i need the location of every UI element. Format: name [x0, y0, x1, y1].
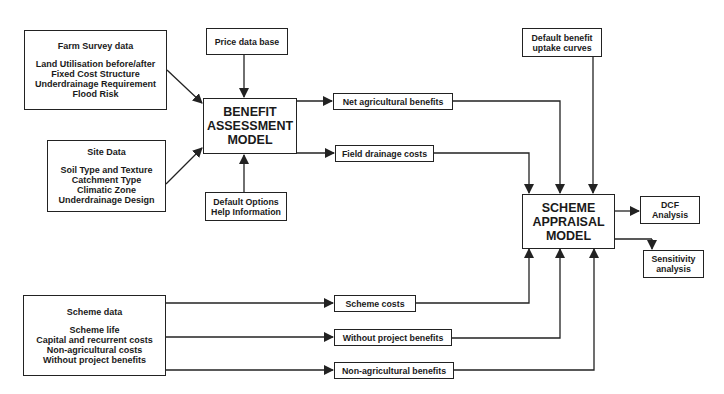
arrow-without-to-sam [452, 249, 560, 338]
arrow-field-drainage-to-sam [434, 153, 529, 193]
site-data-item: Climatic Zone [77, 185, 136, 195]
sam-line: APPRAISAL [532, 215, 604, 229]
scheme-appraisal-model-box: SCHEME APPRAISAL MODEL [522, 194, 615, 249]
dcf-line: Analysis [652, 210, 688, 220]
scheme-data-title: Scheme data [67, 307, 123, 317]
sam-line: MODEL [546, 229, 591, 243]
arrow-farm-to-bam [167, 70, 202, 103]
uptake-line: uptake curves [532, 43, 591, 53]
non-agricultural-benefits-box: Non-agricultural benefits [334, 362, 454, 379]
bam-line: ASSESSMENT [207, 119, 293, 133]
dcf-line: DCF [661, 200, 679, 210]
site-data-box: Site Data Soil Type and Texture Catchmen… [47, 140, 166, 212]
scheme-costs-label: Scheme costs [345, 299, 404, 309]
farm-survey-title: Farm Survey data [58, 41, 134, 51]
non-agricultural-benefits-label: Non-agricultural benefits [342, 366, 446, 376]
default-options-line: Default Options [213, 197, 279, 207]
site-data-item: Underdrainage Design [58, 195, 154, 205]
farm-survey-item: Underdrainage Requirement [35, 79, 156, 89]
arrow-net-agri-to-sam [453, 101, 560, 193]
scheme-data-item: Capital and recurrent costs [36, 335, 153, 345]
arrow-nonagri-to-sam [454, 249, 594, 370]
bam-line: MODEL [227, 133, 272, 147]
sensitivity-line: analysis [656, 264, 691, 274]
scheme-costs-box: Scheme costs [334, 295, 416, 312]
site-data-title: Site Data [87, 147, 126, 157]
bam-line: BENEFIT [223, 105, 276, 119]
dcf-analysis-box: DCF Analysis [640, 196, 700, 224]
without-project-benefits-label: Without project benefits [343, 333, 444, 343]
site-data-item: Soil Type and Texture [60, 165, 152, 175]
arrow-site-to-bam [166, 148, 202, 184]
price-data-base-box: Price data base [206, 28, 288, 55]
net-agricultural-benefits-box: Net agricultural benefits [333, 93, 453, 110]
farm-survey-item: Land Utilisation before/after [36, 59, 156, 69]
farm-survey-item: Flood Risk [72, 89, 118, 99]
benefit-assessment-model-box: BENEFIT ASSESSMENT MODEL [203, 98, 297, 154]
sensitivity-line: Sensitivity [651, 254, 695, 264]
default-options-box: Default Options Help Information [205, 192, 287, 221]
without-project-benefits-box: Without project benefits [334, 329, 452, 346]
scheme-data-box: Scheme data Scheme life Capital and recu… [23, 295, 166, 376]
scheme-data-item: Non-agricultural costs [47, 345, 143, 355]
field-drainage-costs-label: Field drainage costs [342, 149, 427, 159]
site-data-item: Catchment Type [72, 175, 141, 185]
scheme-data-item: Without project benefits [43, 355, 146, 365]
farm-survey-data-box: Farm Survey data Land Utilisation before… [24, 30, 167, 110]
arrow-costs-to-sam [416, 249, 529, 303]
farm-survey-item: Fixed Cost Structure [51, 69, 140, 79]
field-drainage-costs-box: Field drainage costs [335, 145, 434, 162]
default-benefit-uptake-box: Default benefit uptake curves [522, 28, 602, 57]
sensitivity-analysis-box: Sensitivity analysis [643, 250, 704, 278]
net-agricultural-benefits-label: Net agricultural benefits [343, 97, 444, 107]
uptake-line: Default benefit [531, 33, 592, 43]
default-options-line: Help Information [211, 207, 281, 217]
scheme-data-item: Scheme life [69, 325, 119, 335]
sam-line: SCHEME [542, 201, 595, 215]
price-data-base-label: Price data base [215, 37, 280, 47]
